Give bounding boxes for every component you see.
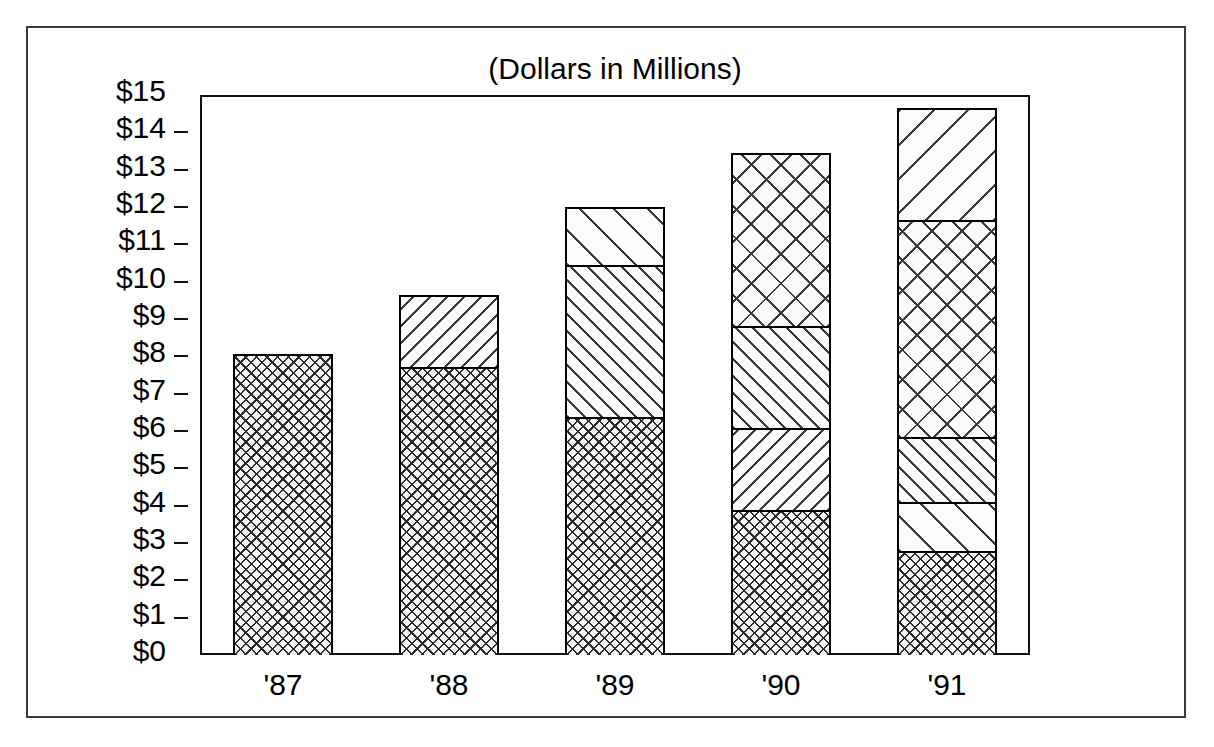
x-axis-tick-label: '89: [532, 663, 698, 713]
y-axis-tick-mark: [174, 169, 188, 171]
bar-segment[interactable]: [899, 502, 995, 550]
x-axis: '87'88'89'90'91: [200, 663, 1030, 713]
y-axis-tick-label: $8: [133, 337, 166, 367]
x-axis-tick-label: '91: [864, 663, 1030, 713]
y-axis-tick-label: $9: [133, 300, 166, 330]
stacked-bar[interactable]: [399, 295, 499, 655]
y-axis-tick-mark: [174, 467, 188, 469]
y-axis-tick-label: $15: [116, 76, 166, 106]
y-axis-tick-mark: [174, 206, 188, 208]
x-axis-tick-label: '87: [200, 663, 366, 713]
bar-segment[interactable]: [567, 209, 663, 265]
y-axis-tick-label: $10: [116, 263, 166, 293]
y-axis-tick-label: $7: [133, 375, 166, 405]
y-axis-tick-mark: [174, 131, 188, 133]
bar-segment[interactable]: [733, 510, 829, 655]
bar-slot: [698, 95, 864, 655]
y-axis-tick-mark: [174, 281, 188, 283]
bar-segment[interactable]: [567, 265, 663, 417]
y-axis-tick-mark: [174, 355, 188, 357]
bar-segment[interactable]: [899, 220, 995, 438]
bar-segment[interactable]: [401, 367, 497, 655]
y-axis: $15$14$13$12$11$10$9$8$7$6$5$4$3$2$1$0: [0, 0, 200, 747]
y-axis-tick-mark: [174, 243, 188, 245]
y-axis-tick-label: $6: [133, 412, 166, 442]
bar-slot: [366, 95, 532, 655]
bar-segment[interactable]: [567, 417, 663, 655]
y-axis-tick-label: $4: [133, 487, 166, 517]
stacked-bar[interactable]: [233, 354, 333, 655]
y-axis-tick-label: $2: [133, 561, 166, 591]
y-axis-tick-mark: [174, 393, 188, 395]
y-axis-tick-label: $5: [133, 449, 166, 479]
stacked-bar[interactable]: [565, 207, 665, 655]
chart-root: (Dollars in Millions) $15$14$13$12$11$10…: [0, 0, 1214, 747]
bar-slot: [200, 95, 366, 655]
bar-segment[interactable]: [235, 356, 331, 655]
y-axis-tick-label: $11: [118, 225, 166, 255]
bar-segment[interactable]: [401, 297, 497, 368]
stacked-bar[interactable]: [897, 108, 997, 655]
y-axis-tick-label: $0: [133, 636, 166, 666]
y-axis-tick-mark: [174, 617, 188, 619]
bar-slot: [864, 95, 1030, 655]
y-axis-tick-label: $13: [116, 151, 166, 181]
chart-title: (Dollars in Millions): [200, 52, 1030, 86]
y-axis-tick-label: $14: [116, 113, 166, 143]
stacked-bar[interactable]: [731, 153, 831, 655]
y-axis-tick-label: $1: [133, 599, 166, 629]
x-axis-tick-label: '88: [366, 663, 532, 713]
y-axis-tick-mark: [174, 505, 188, 507]
bar-segment[interactable]: [733, 326, 829, 428]
bar-segment[interactable]: [733, 155, 829, 326]
x-axis-tick-label: '90: [698, 663, 864, 713]
y-axis-tick-mark: [174, 542, 188, 544]
y-axis-tick-mark: [174, 430, 188, 432]
y-axis-tick-label: $12: [116, 188, 166, 218]
bar-segment[interactable]: [899, 110, 995, 220]
bar-segment[interactable]: [899, 437, 995, 502]
bars-layer: [200, 95, 1030, 655]
y-axis-tick-mark: [174, 318, 188, 320]
bar-segment[interactable]: [899, 551, 995, 655]
bar-segment[interactable]: [733, 428, 829, 510]
bar-slot: [532, 95, 698, 655]
y-axis-tick-mark: [174, 579, 188, 581]
y-axis-tick-label: $3: [133, 524, 166, 554]
